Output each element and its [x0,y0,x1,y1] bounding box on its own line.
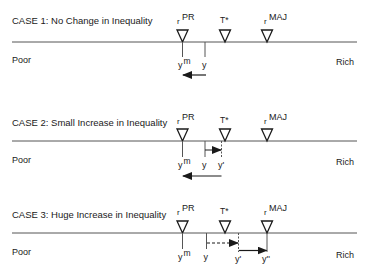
case-3-ym-sup: m [184,248,191,258]
case-2-rpr-base: r [177,117,180,126]
case-1-ym-base: y [178,60,183,70]
case-1-poor-label: Poor [12,55,31,65]
case-2-yprime-label: y' [218,160,225,170]
case-3-poor-label: Poor [12,247,31,257]
case-2-ym-base: y [178,160,183,170]
case-2-rmaj-base: r [264,117,267,126]
case-1-ym-sup: m [184,56,191,66]
case-1-title: CASE 1: No Change in Inequality [12,15,153,26]
case-3-rpr-sup: PR [182,203,195,213]
case-2-rmaj-sup: MAJ [269,112,287,122]
case-3-tstar-label: T* [220,206,229,216]
inequality-diagram: CASE 1: No Change in Inequality Poor Ric… [0,0,368,276]
case-3-rmaj-base: r [264,208,267,217]
case-3-rpr-base: r [177,208,180,217]
case-2-rmaj-triangle-icon [262,129,273,141]
case-2-ym-sup: m [184,156,191,166]
case-3-ym-base: y [178,252,183,262]
case-3-title: CASE 3: Huge Increase in Inequality [12,209,166,220]
case-1-panel: CASE 1: No Change in Inequality Poor Ric… [12,12,357,75]
case-2-rpr-triangle-icon [177,129,188,141]
case-1-rich-label: Rich [336,57,354,67]
case-2-title: CASE 2: Small Increase in Inequality [12,117,167,128]
case-2-tstar-label: T* [220,115,229,125]
case-1-tstar-label: T* [220,15,229,25]
case-3-yprime-label: y' [235,254,242,264]
case-2-panel: CASE 2: Small Increase in Inequality Poo… [12,112,357,176]
case-1-rmaj-triangle-icon [262,30,273,42]
case-1-rpr-base: r [177,17,180,26]
case-2-y-label: y [202,160,207,170]
case-2-poor-label: Poor [12,155,31,165]
case-1-rmaj-base: r [264,17,267,26]
case-1-rmaj-sup: MAJ [269,12,287,22]
case-2-rpr-sup: PR [182,112,195,122]
case-3-rmaj-sup: MAJ [269,203,287,213]
case-3-rich-label: Rich [336,250,354,260]
case-1-rpr-sup: PR [182,12,195,22]
case-2-rich-label: Rich [336,157,354,167]
case-3-panel: CASE 3: Huge Increase in Inequality Poor… [12,203,357,264]
case-1-tstar-triangle-icon [220,30,231,42]
case-1-rpr-triangle-icon [177,30,188,42]
case-2-tstar-triangle-icon [220,129,231,141]
case-1-y-label: y [202,60,207,70]
case-3-rpr-triangle-icon [177,221,188,233]
case-3-y-label: y [204,252,209,262]
case-3-rmaj-triangle-icon [262,221,273,233]
case-3-tstar-triangle-icon [220,221,231,233]
case-3-ydoubleprime-label: y'' [262,254,270,264]
